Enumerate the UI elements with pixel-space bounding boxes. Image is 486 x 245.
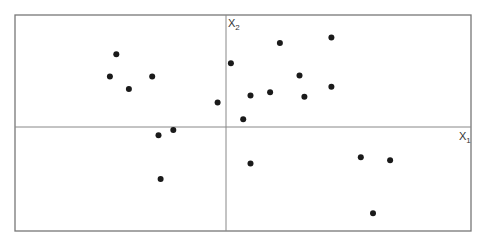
data-point: [156, 132, 162, 138]
data-point: [370, 210, 376, 216]
data-point: [297, 73, 303, 79]
data-point: [301, 94, 307, 100]
data-point: [149, 74, 155, 80]
data-point: [158, 176, 164, 182]
data-point: [107, 74, 113, 80]
x-axis-label: X1: [459, 130, 471, 145]
data-point: [215, 99, 221, 105]
data-point: [170, 127, 176, 133]
data-point: [358, 154, 364, 160]
data-point: [240, 116, 246, 122]
scatter-plot: X2 X1: [0, 0, 486, 245]
data-point: [248, 160, 254, 166]
data-point: [328, 34, 334, 40]
data-point: [126, 86, 132, 92]
data-point: [248, 93, 254, 99]
data-points: [107, 34, 393, 216]
data-point: [277, 40, 283, 46]
y-axis-label: X2: [228, 17, 240, 32]
data-point: [387, 157, 393, 163]
data-point: [267, 89, 273, 95]
data-point: [328, 84, 334, 90]
data-point: [113, 51, 119, 57]
data-point: [228, 60, 234, 66]
plot-frame: [15, 15, 471, 231]
